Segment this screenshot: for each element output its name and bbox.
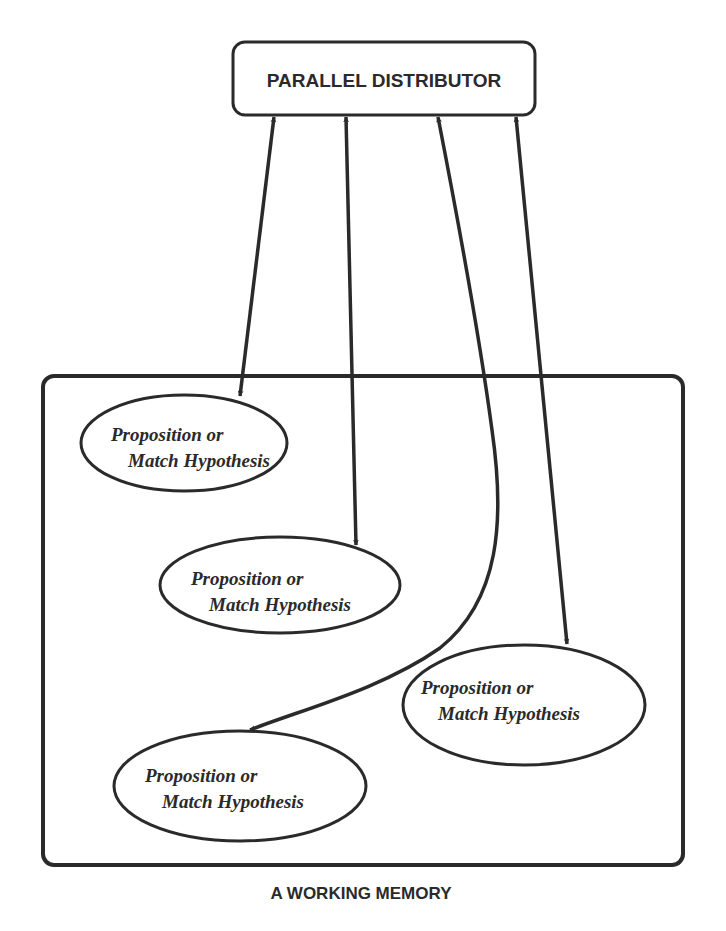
connection-arrow (516, 117, 567, 644)
parallel-distributor: PARALLEL DISTRIBUTOR (233, 42, 535, 115)
proposition-node: Proposition or Match Hypothesis (114, 731, 366, 841)
connection-arrow-curved (250, 117, 498, 730)
node-line-2: Match Hypothesis (208, 594, 351, 615)
connection-arrow (240, 117, 274, 396)
connections (240, 117, 567, 730)
node-line-1: Proposition or (110, 424, 224, 445)
node-line-2: Match Hypothesis (437, 703, 580, 724)
proposition-node: Proposition or Match Hypothesis (81, 395, 287, 491)
connection-arrow (346, 117, 356, 545)
working-memory-label: A WORKING MEMORY (270, 884, 452, 903)
node-line-1: Proposition or (420, 677, 534, 698)
diagram-canvas: PARALLEL DISTRIBUTOR A WORKING MEMORY Pr… (0, 0, 726, 931)
distributor-label: PARALLEL DISTRIBUTOR (267, 70, 502, 91)
node-line-1: Proposition or (144, 765, 258, 786)
proposition-node: Proposition or Match Hypothesis (403, 645, 645, 765)
node-ellipse (114, 731, 366, 841)
node-line-2: Match Hypothesis (127, 450, 270, 471)
node-line-2: Match Hypothesis (161, 791, 304, 812)
node-line-1: Proposition or (190, 568, 304, 589)
proposition-node: Proposition or Match Hypothesis (160, 537, 400, 633)
